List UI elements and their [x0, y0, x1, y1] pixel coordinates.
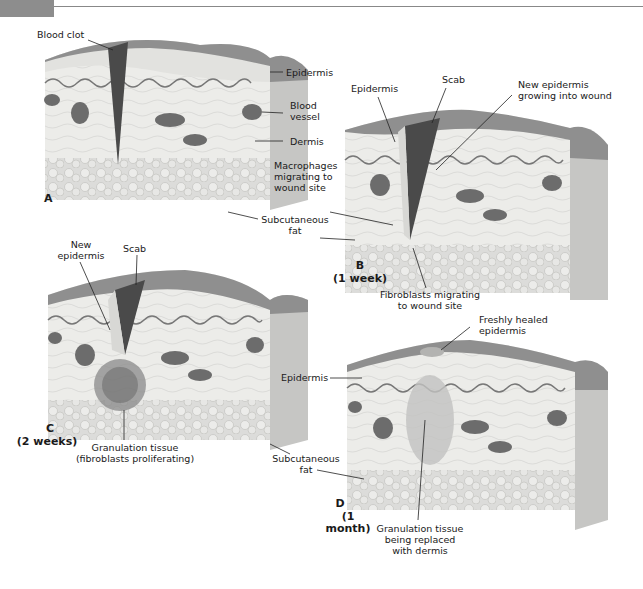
label-granulation-c: Granulation tissue (fibroblasts prolifer…: [70, 442, 200, 464]
label-scab-b: Scab: [442, 74, 465, 85]
label-new-epidermis-b: New epidermis growing into wound: [518, 79, 612, 101]
label-subcutaneous-fat-d: Subcutaneous fat: [266, 453, 346, 475]
label-epidermis-a: Epidermis: [286, 67, 333, 78]
panel-c-block: [48, 270, 272, 440]
panel-d-block: [347, 340, 608, 530]
panel-c-letter: C: [35, 423, 65, 435]
panel-a-letter: A: [44, 193, 53, 205]
label-granulation-d: Granulation tissue being replaced with d…: [365, 523, 475, 556]
label-scab-c: Scab: [123, 243, 146, 254]
label-new-epidermis-c: New epidermis: [56, 239, 106, 261]
label-subcutaneous-fat-b: Subcutaneous fat: [250, 214, 340, 236]
label-macrophages: Macrophages migrating to wound site: [274, 160, 337, 193]
panel-b-time: (1 week): [330, 273, 390, 285]
panel-b-letter: B: [335, 260, 385, 272]
panel-a-block: [44, 40, 308, 210]
label-blood-vessel: Blood vessel: [290, 100, 320, 122]
panel-d-letter: D: [325, 498, 355, 510]
label-fibroblasts-b: Fibroblasts migrating to wound site: [370, 289, 490, 311]
label-dermis: Dermis: [290, 136, 324, 147]
label-blood-clot: Blood clot: [37, 29, 84, 40]
label-epidermis-d: Epidermis: [281, 372, 328, 383]
label-freshly-healed: Freshly healed epidermis: [479, 314, 548, 336]
label-epidermis-b: Epidermis: [351, 83, 398, 94]
